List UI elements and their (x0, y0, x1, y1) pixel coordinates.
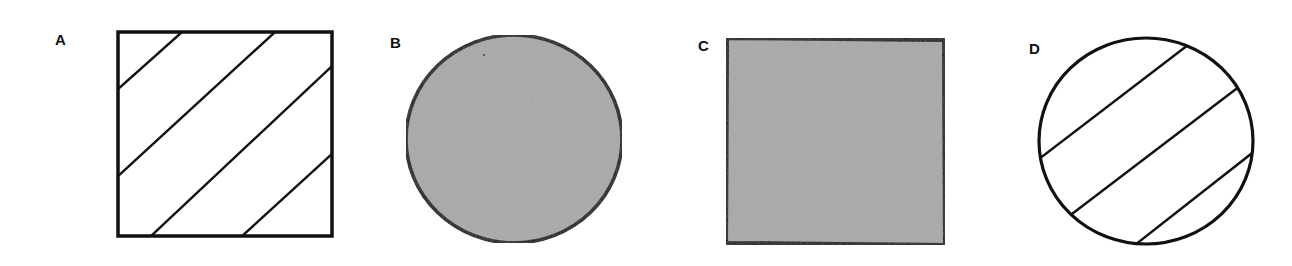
figure-label-d: D (1029, 41, 1040, 56)
figure-label-a: A (55, 32, 66, 47)
square-outline (118, 32, 332, 236)
figure-label-b: B (390, 35, 401, 50)
figure-d-hatched-circle (1035, 38, 1256, 252)
figure-panel: A B C D (0, 0, 1292, 266)
figure-b-gray-circle (406, 35, 622, 243)
shapes-canvas (0, 0, 1292, 266)
speck (483, 54, 485, 56)
figure-label-c: C (698, 38, 709, 53)
square-filled (726, 38, 945, 245)
figure-a-hatched-square (117, 32, 332, 237)
figure-c-gray-square (726, 38, 945, 245)
circle-filled (406, 35, 622, 243)
